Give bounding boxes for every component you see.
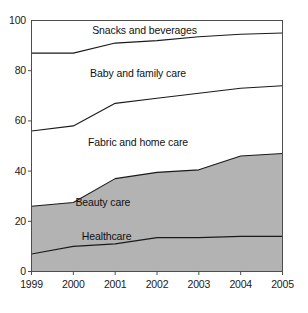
series-label-fabric-and-home-care: Fabric and home care bbox=[88, 136, 188, 148]
x-axis-label-1999: 1999 bbox=[12, 278, 52, 290]
series-label-beauty-care: Beauty care bbox=[75, 196, 130, 208]
y-axis-label-60: 60 bbox=[0, 114, 26, 126]
series-line-baby-and-family-care bbox=[32, 33, 283, 53]
area-chart: 0204060801001999200020012002200320042005… bbox=[0, 0, 308, 313]
y-axis-label-0: 0 bbox=[0, 265, 26, 277]
series-label-healthcare: Healthcare bbox=[82, 230, 132, 242]
y-axis-label-40: 40 bbox=[0, 165, 26, 177]
y-axis-label-100: 100 bbox=[0, 14, 26, 26]
x-axis-label-2002: 2002 bbox=[137, 278, 177, 290]
x-axis-label-2003: 2003 bbox=[179, 278, 219, 290]
y-axis-label-80: 80 bbox=[0, 64, 26, 76]
y-axis-label-20: 20 bbox=[0, 215, 26, 227]
series-label-snacks-and-beverages: Snacks and beverages bbox=[92, 24, 197, 36]
chart-plot-area bbox=[0, 0, 308, 313]
series-label-baby-and-family-care: Baby and family care bbox=[90, 67, 186, 79]
series-line-fabric-and-home-care bbox=[32, 86, 283, 131]
x-axis-label-2001: 2001 bbox=[95, 278, 135, 290]
x-axis-label-2000: 2000 bbox=[53, 278, 93, 290]
x-axis-label-2004: 2004 bbox=[221, 278, 261, 290]
x-axis-label-2005: 2005 bbox=[263, 278, 303, 290]
